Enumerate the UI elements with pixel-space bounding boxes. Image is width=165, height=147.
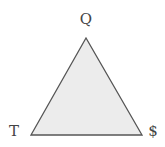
- triangle-shape: [31, 38, 142, 135]
- vertex-label-bottom-left: T: [9, 122, 19, 140]
- triangle-diagram: Q T $: [0, 0, 165, 147]
- vertex-label-top: Q: [80, 10, 92, 28]
- vertex-label-bottom-right: $: [148, 122, 158, 140]
